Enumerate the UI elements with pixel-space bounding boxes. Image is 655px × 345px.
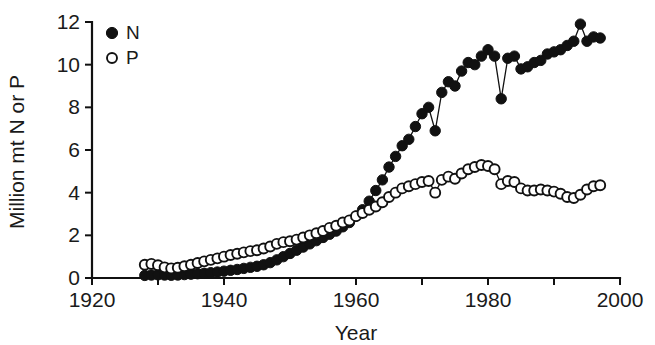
y-tick-label: 12 [57, 10, 80, 33]
data-point-N [595, 33, 605, 43]
data-point-N [509, 51, 519, 61]
legend-marker-N [106, 27, 117, 38]
legend-label-P: P [126, 47, 139, 68]
y-tick-label: 10 [57, 53, 80, 76]
data-point-N [456, 66, 466, 76]
data-point-P [430, 188, 440, 198]
data-point-N [390, 151, 400, 161]
series-line-P [145, 165, 600, 268]
y-tick-label: 4 [68, 181, 80, 204]
data-point-N [371, 185, 381, 195]
chart-figure: 024681012 19201940196019802000 Year Mill… [0, 0, 655, 345]
x-tick-label: 1960 [333, 288, 380, 311]
data-point-P [424, 176, 434, 186]
x-tick-label: 1980 [465, 288, 512, 311]
data-point-P [490, 164, 500, 174]
data-point-N [384, 162, 394, 172]
x-tick-label: 1920 [69, 288, 116, 311]
x-tick-label: 1940 [201, 288, 248, 311]
data-point-N [569, 36, 579, 46]
legend-label-N: N [126, 22, 140, 43]
data-point-N [404, 134, 414, 144]
series-layer [140, 19, 606, 281]
x-tick-label: 2000 [597, 288, 644, 311]
data-point-N [377, 175, 387, 185]
y-tick-label: 0 [68, 266, 80, 289]
legend-marker-P [107, 53, 117, 63]
x-axis-title: Year [335, 321, 377, 344]
data-point-N [575, 19, 585, 29]
data-point-P [595, 180, 605, 190]
y-axis-tick-labels: 024681012 [57, 10, 81, 289]
data-point-N [430, 126, 440, 136]
data-point-N [423, 102, 433, 112]
x-axis-tick-labels: 19201940196019802000 [69, 288, 644, 311]
series-P [140, 160, 605, 273]
data-point-N [410, 121, 420, 131]
y-axis-title: Million mt N or P [5, 75, 28, 229]
y-tick-label: 8 [68, 95, 80, 118]
data-point-N [450, 81, 460, 91]
y-tick-label: 2 [68, 223, 80, 246]
data-point-N [489, 51, 499, 61]
data-point-N [470, 59, 480, 69]
data-point-N [496, 94, 506, 104]
data-point-N [437, 87, 447, 97]
series-N [140, 19, 606, 281]
chart-legend: NP [106, 22, 139, 68]
scatter-plot: 024681012 19201940196019802000 Year Mill… [0, 0, 655, 345]
y-tick-label: 6 [68, 138, 80, 161]
